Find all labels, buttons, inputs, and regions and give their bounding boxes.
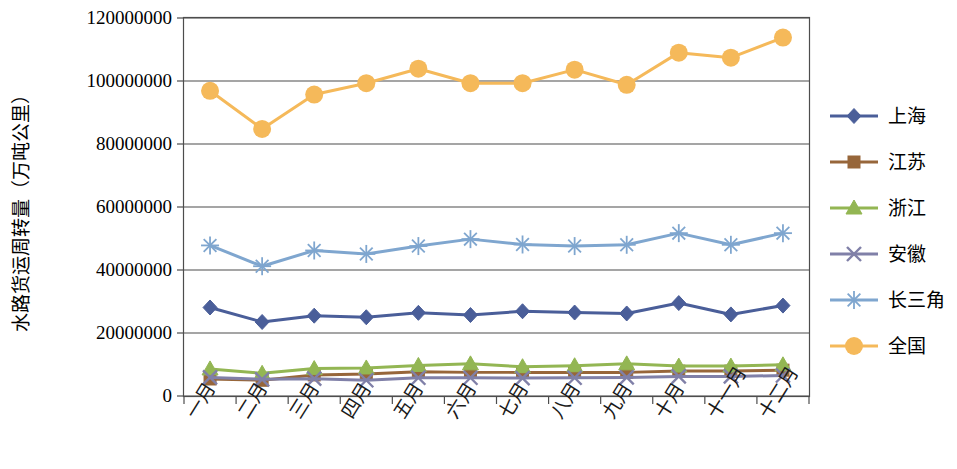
data-point-asterisk <box>722 236 740 254</box>
y-axis-tick-label: 80000000 <box>96 133 172 154</box>
legend-label: 安徽 <box>888 244 926 265</box>
legend-item-上海[interactable]: 上海 <box>830 106 926 127</box>
y-axis-tick-label: 0 <box>163 385 173 406</box>
data-point-asterisk <box>845 291 863 309</box>
data-point-diamond <box>463 308 477 323</box>
data-point-circle <box>722 49 740 67</box>
data-point-diamond <box>672 296 686 311</box>
y-axis-tick-label: 20000000 <box>96 322 172 343</box>
y-axis-tick-label: 40000000 <box>96 259 172 280</box>
line-chart: 0200000004000000060000000800000001000000… <box>0 0 957 469</box>
gridlines <box>184 18 809 396</box>
y-axis-tick-labels: 0200000004000000060000000800000001000000… <box>87 7 173 406</box>
x-axis-category-label: 十月 <box>650 379 688 422</box>
data-point-circle <box>409 60 427 78</box>
data-point-circle <box>670 44 688 62</box>
data-point-circle <box>253 120 271 138</box>
data-point-asterisk <box>514 235 532 253</box>
data-point-circle <box>201 82 219 100</box>
legend-item-全国[interactable]: 全国 <box>830 336 926 357</box>
data-point-asterisk <box>670 224 688 242</box>
data-point-diamond <box>776 298 790 313</box>
x-axis-category-label: 七月 <box>494 379 532 422</box>
data-point-asterisk <box>357 245 375 263</box>
data-point-diamond <box>411 305 425 320</box>
x-axis-category-label: 三月 <box>286 379 324 422</box>
data-point-asterisk <box>774 224 792 242</box>
legend-label: 浙江 <box>888 198 926 219</box>
legend-label: 上海 <box>888 106 926 127</box>
data-point-diamond <box>203 300 217 315</box>
data-point-asterisk <box>461 230 479 248</box>
data-point-circle <box>305 86 323 104</box>
data-point-circle <box>566 61 584 79</box>
data-point-circle <box>461 74 479 92</box>
data-point-circle <box>514 74 532 92</box>
data-point-diamond <box>516 304 530 319</box>
series-line <box>210 303 783 322</box>
data-point-asterisk <box>618 236 636 254</box>
data-point-square <box>848 156 860 168</box>
y-axis-title: 水路货运周转量（万吨公里） <box>11 85 32 332</box>
data-point-diamond <box>307 308 321 323</box>
data-point-circle <box>845 337 863 355</box>
y-axis-tick-label: 100000000 <box>87 70 173 91</box>
chart-container: 0200000004000000060000000800000001000000… <box>0 0 957 469</box>
series-上海 <box>203 296 790 330</box>
x-axis-category-label: 八月 <box>546 379 584 422</box>
legend-item-安徽[interactable]: 安徽 <box>830 244 926 265</box>
data-point-circle <box>357 74 375 92</box>
legend-item-浙江[interactable]: 浙江 <box>830 198 926 219</box>
series-全国 <box>201 29 792 138</box>
series-line <box>210 233 783 266</box>
data-point-diamond <box>847 109 861 124</box>
data-point-circle <box>618 76 636 94</box>
series-line <box>210 38 783 129</box>
legend-label: 江苏 <box>888 152 926 173</box>
data-point-diamond <box>359 310 373 325</box>
x-axis-category-label: 五月 <box>390 379 428 422</box>
axis-ticks <box>177 18 809 404</box>
legend-label: 全国 <box>888 336 926 357</box>
x-axis-category-label: 六月 <box>442 379 480 422</box>
series-长三角 <box>201 224 792 275</box>
data-point-circle <box>774 29 792 47</box>
legend-item-长三角[interactable]: 长三角 <box>830 290 945 311</box>
data-point-diamond <box>620 306 634 321</box>
data-point-asterisk <box>409 237 427 255</box>
chart-legend: 上海江苏浙江安徽长三角全国 <box>830 106 945 357</box>
y-axis-tick-label: 120000000 <box>87 7 173 28</box>
data-point-asterisk <box>305 241 323 259</box>
data-point-diamond <box>255 314 269 329</box>
data-point-asterisk <box>201 236 219 254</box>
x-axis-category-label: 九月 <box>598 379 636 422</box>
data-point-asterisk <box>253 257 271 275</box>
legend-label: 长三角 <box>888 290 945 311</box>
y-axis-tick-label: 60000000 <box>96 196 172 217</box>
data-point-diamond <box>568 305 582 320</box>
data-point-asterisk <box>566 237 584 255</box>
legend-item-江苏[interactable]: 江苏 <box>830 152 926 173</box>
data-point-diamond <box>724 307 738 322</box>
